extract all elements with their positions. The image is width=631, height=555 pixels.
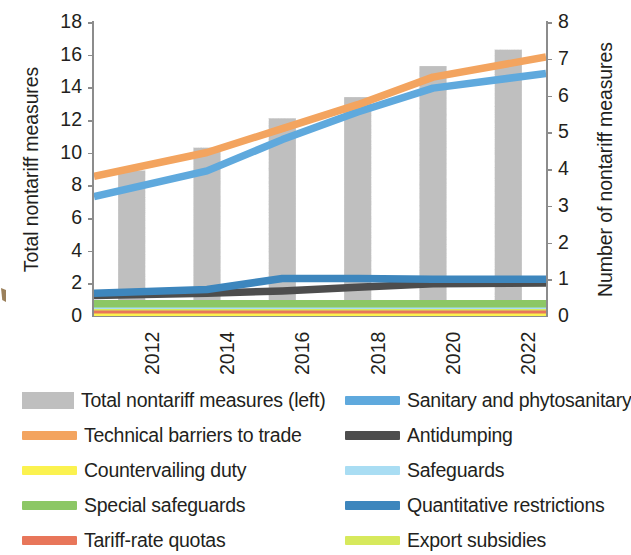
legend-item[interactable]: Quantitative restrictions [345, 490, 605, 520]
edge-artifact-mark [1, 288, 6, 302]
line-series-group [94, 57, 546, 314]
y-axis-left-tick-label: 8 [40, 175, 82, 195]
legend-item-label: Antidumping [407, 424, 513, 447]
legend-item-label: Quantitative restrictions [407, 494, 605, 517]
legend-item-label: Export subsidies [407, 529, 546, 552]
bar-total-nontariff-measures [269, 118, 296, 316]
y-axis-left-tick-label: 14 [40, 77, 82, 97]
legend-item-label: Total nontariff measures (left) [81, 389, 325, 412]
legend-item-label: Tariff-rate quotas [84, 529, 225, 552]
legend-item-label: Special safeguards [84, 494, 245, 517]
y-axis-right-tick-mark [546, 132, 552, 134]
legend-item[interactable]: Tariff-rate quotas [22, 525, 225, 555]
line-swatch-icon [345, 396, 400, 405]
line-technical-barriers-to-trade [94, 57, 546, 176]
y-axis-right-tick-label: 7 [558, 49, 600, 69]
y-axis-left-tick-label: 10 [40, 143, 82, 163]
y-axis-left-tick-label: 6 [40, 208, 82, 228]
legend-item[interactable]: Sanitary and phytosanitary [345, 385, 631, 415]
y-axis-right-tick-mark [546, 169, 552, 171]
legend-item-label: Sanitary and phytosanitary [407, 389, 631, 412]
legend-item[interactable]: Antidumping [345, 420, 513, 450]
legend-item-label: Countervailing duty [84, 459, 246, 482]
legend-item[interactable]: Special safeguards [22, 490, 245, 520]
y-axis-right-tick-mark [546, 59, 552, 61]
x-axis-tick-label: 2018 [367, 332, 390, 375]
line-swatch-icon [22, 431, 77, 440]
y-axis-left-tick-label: 16 [40, 45, 82, 65]
x-axis-tick-label: 2014 [216, 332, 239, 375]
y-axis-right-tick-label: 4 [558, 159, 600, 179]
line-swatch-icon [22, 466, 77, 475]
y-axis-right-tick-label: 3 [558, 196, 600, 216]
y-axis-left-tick-label: 4 [40, 241, 82, 261]
bar-swatch-icon [22, 392, 74, 409]
y-axis-right-tick-mark [546, 96, 552, 98]
y-axis-right-tick-mark [546, 22, 552, 24]
y-axis-right-tick-label: 6 [558, 86, 600, 106]
line-swatch-icon [345, 501, 400, 510]
legend-item[interactable]: Safeguards [345, 455, 504, 485]
y-axis-left-tick-label: 2 [40, 273, 82, 293]
y-axis-right-tick-mark [546, 206, 552, 208]
x-axis-tick-label: 2012 [141, 332, 164, 375]
line-swatch-icon [345, 466, 400, 475]
line-swatch-icon [22, 501, 77, 510]
x-axis-tick-label: 2020 [442, 332, 465, 375]
legend-item-label: Safeguards [407, 459, 504, 482]
y-axis-right-tick-label: 0 [558, 306, 600, 326]
line-swatch-icon [345, 536, 400, 545]
legend-item[interactable]: Export subsidies [345, 525, 546, 555]
y-axis-right-tick-mark [546, 279, 552, 281]
y-axis-right-tick-label: 8 [558, 12, 600, 32]
y-axis-left-tick-label: 0 [40, 306, 82, 326]
chart-legend: Total nontariff measures (left)Technical… [0, 383, 629, 555]
line-swatch-icon [22, 536, 77, 545]
line-swatch-icon [345, 431, 400, 440]
line-sanitary-and-phytosanitary [94, 73, 546, 196]
chart-canvas [94, 22, 546, 316]
x-axis-tick-label: 2016 [291, 332, 314, 375]
legend-item[interactable]: Technical barriers to trade [22, 420, 302, 450]
y-axis-left-tick-label: 12 [40, 110, 82, 130]
legend-item[interactable]: Total nontariff measures (left) [22, 385, 325, 415]
legend-item[interactable]: Countervailing duty [22, 455, 246, 485]
x-axis-tick-label: 2022 [517, 332, 540, 375]
y-axis-right-tick-mark [546, 243, 552, 245]
y-axis-right-tick-label: 2 [558, 233, 600, 253]
plot-area [94, 22, 546, 316]
legend-item-label: Technical barriers to trade [84, 424, 302, 447]
y-axis-right-tick-label: 1 [558, 269, 600, 289]
y-axis-right-tick-label: 5 [558, 122, 600, 142]
y-axis-left-tick-label: 18 [40, 12, 82, 32]
